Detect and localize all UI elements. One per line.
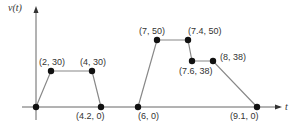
label-9.1-0: (9.1, 0) — [230, 111, 259, 121]
point-8-38 — [210, 58, 216, 64]
point-9.1-0 — [254, 104, 260, 110]
label-7.4-50: (7.4, 50) — [188, 26, 222, 36]
point-2-30 — [48, 68, 54, 74]
y-axis-arrow-icon — [34, 6, 39, 13]
label-6-0: (6, 0) — [138, 111, 159, 121]
x-axis-label: t — [285, 101, 288, 112]
point-0-0 — [33, 104, 39, 110]
label-2-30: (2, 30) — [39, 57, 65, 67]
label-8-38: (8, 38) — [220, 52, 246, 62]
data-points — [33, 37, 260, 110]
point-4.2-0 — [98, 104, 104, 110]
y-axis-label: v(t) — [8, 2, 23, 14]
label-7-50: (7, 50) — [139, 26, 165, 36]
point-7.6-38 — [189, 58, 195, 64]
point-4-30 — [89, 68, 95, 74]
point-7-50 — [154, 37, 160, 43]
label-4-30: (4, 30) — [80, 57, 106, 67]
point-7.4-50 — [185, 37, 191, 43]
point-6-0 — [135, 104, 141, 110]
x-axis-arrow-icon — [275, 105, 282, 110]
label-7.6-38: (7.6, 38) — [179, 66, 213, 76]
velocity-chart: t v(t) (2, 30) (4, 30) (4.2, 0) (6, 0) (… — [0, 0, 295, 128]
label-4.2-0: (4.2, 0) — [76, 111, 105, 121]
segment-1 — [36, 71, 101, 107]
